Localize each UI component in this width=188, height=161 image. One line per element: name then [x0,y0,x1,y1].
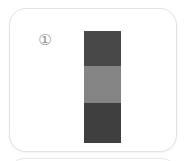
band-top [84,31,121,66]
option-card-2[interactable] [9,158,177,161]
tri-band-vertical-bar [84,31,121,143]
band-bottom [84,103,121,143]
circled-number-icon: ① [38,33,52,47]
screenshot-stage: ① [0,0,188,161]
option-card-1[interactable]: ① [9,8,177,152]
band-middle [84,66,121,103]
